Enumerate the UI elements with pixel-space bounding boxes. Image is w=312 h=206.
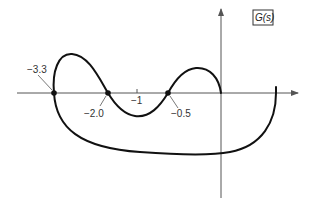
label-minus-2-0: −2.0 [84, 108, 104, 119]
label-minus-0-5: −0.5 [171, 108, 191, 119]
crossing-point-minus-0-5 [165, 90, 171, 96]
crossing-point-minus-3-3 [51, 90, 57, 96]
crossing-point-minus-2-0 [105, 90, 111, 96]
transfer-function-label: G(s) [255, 12, 274, 23]
nyquist-diagram: −1 −3.3 −2.0 −0.5 G(s) [0, 0, 312, 206]
leader-line-minus-3-3 [38, 75, 52, 90]
label-minus-3-3: −3.3 [27, 64, 47, 75]
leader-line-minus-2-0 [100, 96, 106, 106]
tick-label-minus-one: −1 [131, 95, 143, 106]
nyquist-curve [54, 54, 276, 154]
leader-line-minus-0-5 [170, 96, 178, 108]
